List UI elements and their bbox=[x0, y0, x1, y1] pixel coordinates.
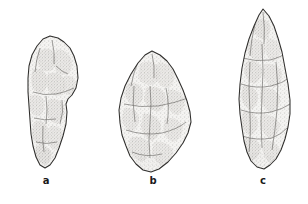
specimen-a-drawing bbox=[24, 32, 84, 174]
artifact-plate: a b c bbox=[0, 0, 308, 204]
specimen-label-c: c bbox=[253, 175, 273, 187]
specimen-label-b: b bbox=[143, 175, 163, 187]
specimen-b-drawing bbox=[115, 47, 195, 177]
lithic-illustration bbox=[0, 0, 308, 204]
specimen-c-drawing bbox=[235, 5, 295, 175]
specimen-label-a: a bbox=[36, 175, 56, 187]
